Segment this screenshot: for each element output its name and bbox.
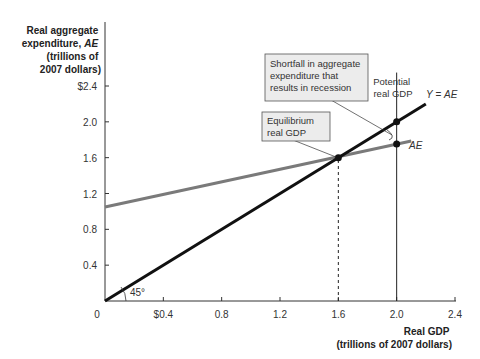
- y-tick-label: 1.2: [83, 189, 97, 200]
- y-tick-label: $2.4: [78, 81, 98, 92]
- potential-label: Potential real GDP: [373, 76, 413, 99]
- equilibrium-leader: [293, 140, 336, 157]
- point-equilibrium: [335, 154, 342, 161]
- y-eq-ae-eq: =: [433, 89, 444, 100]
- potential-line-1: Potential: [373, 76, 410, 87]
- x-tick-label: 0.8: [215, 309, 229, 320]
- shortfall-line-1: Shortfall in aggregate: [270, 58, 360, 69]
- shortfall-bracket: [386, 129, 392, 140]
- x-tick-label: 1.2: [273, 309, 287, 320]
- y-label-line-4: 2007 dollars): [40, 64, 101, 75]
- x-tick-label: 2.4: [448, 309, 462, 320]
- y-tick-label: 0.8: [83, 224, 97, 235]
- equilibrium-line-2: real GDP: [267, 127, 306, 138]
- angle-label: 45°: [130, 287, 145, 298]
- potential-line-2: real GDP: [373, 88, 412, 99]
- origin-label: 0: [94, 309, 100, 320]
- y-label-line-1: Real aggregate: [27, 25, 99, 36]
- y-eq-ae-label: Y = AE: [426, 89, 458, 100]
- y-label-line-2: expenditure,: [22, 38, 84, 49]
- equilibrium-line-1: Equilibrium: [267, 115, 314, 126]
- y-label-ae: AE: [83, 38, 98, 49]
- point-potential-on-45: [393, 118, 400, 125]
- chart: 0.40.81.21.62.0$2.4 $0.40.81.21.62.02.4 …: [0, 0, 480, 359]
- ae-label: AE: [408, 140, 423, 151]
- y-tick-label: 1.6: [83, 153, 97, 164]
- x-tick-label: $0.4: [154, 309, 174, 320]
- x-axis-label: Real GDP (trillions of 2007 dollars): [336, 326, 452, 350]
- shortfall-line-2: expenditure that: [270, 70, 338, 81]
- series-ae: [105, 141, 411, 207]
- shortfall-leader: [331, 100, 392, 135]
- x-tick-label: 2.0: [390, 309, 404, 320]
- y-eq-ae-ae: AE: [443, 89, 458, 100]
- x-tick-label: 1.6: [331, 309, 345, 320]
- y-label-line-3: (trillions of: [47, 51, 99, 62]
- x-label-line-2: (trillions of 2007 dollars): [336, 339, 452, 350]
- point-potential-on-ae: [393, 141, 400, 148]
- x-label-line-1: Real GDP: [404, 326, 450, 337]
- y-tick-label: 2.0: [83, 117, 97, 128]
- shortfall-line-3: results in recession: [270, 82, 351, 93]
- y-tick-label: 0.4: [83, 260, 97, 271]
- y-axis-label: Real aggregate expenditure, AE (trillion…: [22, 25, 101, 75]
